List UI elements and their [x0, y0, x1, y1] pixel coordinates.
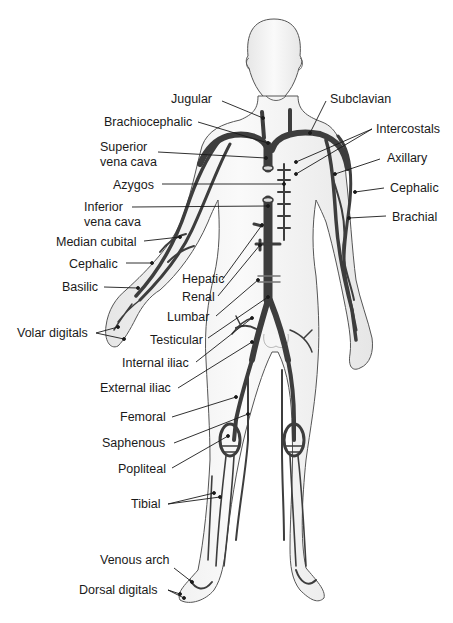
- jugular-vein: [262, 112, 264, 138]
- label-inferior-vena-cava-line2: vena cava: [84, 215, 141, 229]
- label-hepatic: Hepatic: [182, 272, 224, 286]
- label-azygos: Azygos: [113, 178, 154, 192]
- label-superior-vena-cava-line1: Superior: [100, 140, 147, 154]
- label-inferior-vena-cava-line1: Inferior: [84, 200, 123, 214]
- label-dorsal-digitals: Dorsal digitals: [79, 583, 158, 597]
- label-renal: Renal: [182, 290, 215, 304]
- label-cephalic-left: Cephalic: [69, 257, 118, 271]
- label-testicular: Testicular: [150, 333, 203, 347]
- label-lumbar: Lumbar: [167, 310, 209, 324]
- label-popliteal: Popliteal: [118, 462, 166, 476]
- label-basilic: Basilic: [62, 280, 98, 294]
- label-median-cubital: Median cubital: [56, 235, 137, 249]
- label-axillary: Axillary: [387, 151, 427, 165]
- label-saphenous: Saphenous: [102, 436, 165, 450]
- head: [246, 19, 302, 102]
- label-external-iliac: External iliac: [100, 381, 171, 395]
- label-femoral: Femoral: [120, 410, 166, 424]
- label-tibial: Tibial: [131, 497, 160, 511]
- label-internal-iliac: Internal iliac: [122, 356, 189, 370]
- venous-system-diagram: Jugular Brachiocephalic Superior vena ca…: [0, 0, 453, 623]
- label-cephalic-right: Cephalic: [390, 181, 439, 195]
- label-venous-arch: Venous arch: [100, 553, 170, 567]
- label-brachial: Brachial: [392, 210, 437, 224]
- label-brachiocephalic: Brachiocephalic: [104, 115, 192, 129]
- label-superior-vena-cava-line2: vena cava: [100, 155, 157, 169]
- label-volar-digitals: Volar digitals: [17, 326, 88, 340]
- label-jugular: Jugular: [171, 92, 212, 106]
- label-intercostals: Intercostals: [376, 122, 440, 136]
- label-subclavian: Subclavian: [330, 92, 391, 106]
